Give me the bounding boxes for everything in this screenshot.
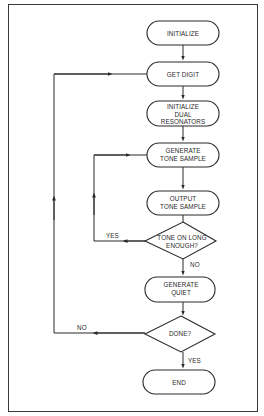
node-get-digit: GET DIGIT bbox=[147, 62, 219, 86]
decision-tone-on-long-enough: TONE ON LONG ENOUGH? bbox=[145, 222, 216, 259]
outer-loop-connector bbox=[54, 74, 147, 333]
svg-text:TONE SAMPLE: TONE SAMPLE bbox=[160, 203, 206, 210]
svg-text:DUAL: DUAL bbox=[174, 111, 192, 118]
edge-label-tone-yes: YES bbox=[106, 232, 119, 239]
svg-text:GET DIGIT: GET DIGIT bbox=[167, 71, 199, 78]
node-initialize-dual-resonators: INITIALIZE DUAL RESONATORS bbox=[147, 101, 219, 126]
node-output-tone-sample: OUTPUT TONE SAMPLE bbox=[147, 191, 219, 215]
node-generate-quiet: GENERATE QUIET bbox=[145, 277, 215, 302]
svg-text:END: END bbox=[172, 379, 186, 386]
node-initialize: INITIALIZE bbox=[147, 21, 219, 45]
node-end: END bbox=[143, 370, 215, 394]
decision-done: DONE? bbox=[145, 316, 215, 352]
edge-label-tone-no: NO bbox=[190, 261, 200, 268]
svg-text:DONE?: DONE? bbox=[169, 330, 192, 337]
svg-text:TONE ON LONG: TONE ON LONG bbox=[157, 234, 206, 241]
svg-text:INITIALIZE: INITIALIZE bbox=[167, 30, 199, 37]
svg-text:ENOUGH?: ENOUGH? bbox=[166, 242, 198, 249]
edge-label-done-yes: YES bbox=[188, 357, 201, 364]
inner-loop-connector bbox=[94, 155, 147, 241]
svg-text:RESONATORS: RESONATORS bbox=[161, 118, 206, 125]
node-generate-tone-sample: GENERATE TONE SAMPLE bbox=[147, 143, 219, 167]
figure-border bbox=[9, 5, 258, 412]
svg-text:GENERATE: GENERATE bbox=[164, 281, 199, 288]
svg-text:GENERATE: GENERATE bbox=[166, 147, 201, 154]
svg-text:OUTPUT: OUTPUT bbox=[170, 195, 197, 202]
edge-label-done-no: NO bbox=[77, 324, 87, 331]
flowchart: INITIALIZE GET DIGIT INITIALIZE DUAL RES… bbox=[0, 0, 264, 416]
svg-text:TONE SAMPLE: TONE SAMPLE bbox=[160, 155, 206, 162]
svg-text:INITIALIZE: INITIALIZE bbox=[167, 103, 199, 110]
svg-text:QUIET: QUIET bbox=[171, 289, 191, 297]
